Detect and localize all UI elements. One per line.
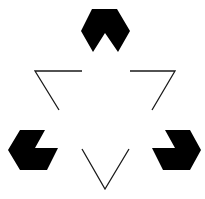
outline-left-corner xyxy=(35,71,82,110)
outline-bottom-corner xyxy=(82,149,129,189)
right-inducer xyxy=(152,130,201,170)
kanizsa-figure xyxy=(0,0,205,199)
top-inducer xyxy=(81,9,130,52)
left-inducer xyxy=(8,130,58,170)
outline-right-corner xyxy=(130,71,175,110)
